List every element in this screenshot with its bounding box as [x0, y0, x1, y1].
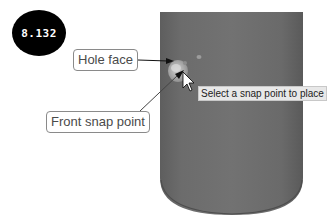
- hole-face-callout: Hole face: [73, 49, 138, 71]
- front-snap-point-callout: Front snap point: [46, 111, 150, 133]
- figure-number: 8.132: [21, 27, 57, 40]
- snap-tooltip-text: Select a snap point to place: [201, 88, 324, 99]
- figure-number-badge: 8.132: [12, 10, 66, 56]
- cylinder-model[interactable]: [160, 12, 303, 215]
- snap-tooltip: Select a snap point to place: [198, 86, 327, 101]
- hole-face-label: Hole face: [78, 52, 133, 67]
- front-snap-point-label: Front snap point: [51, 114, 145, 129]
